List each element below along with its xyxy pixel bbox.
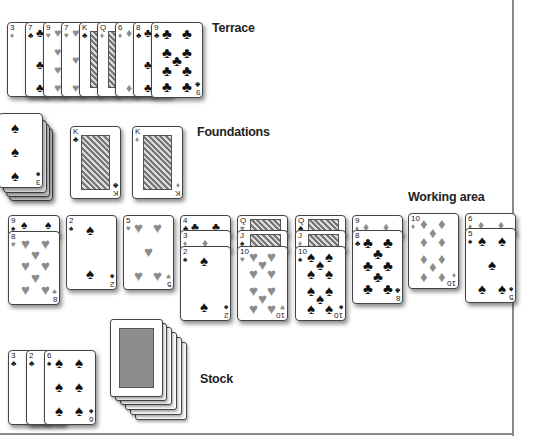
- diamond-icon: ♦: [438, 234, 446, 249]
- spade-icon: ♠: [307, 266, 315, 281]
- spade-icon: ♠: [183, 256, 187, 264]
- heart-icon: ♥: [267, 301, 276, 316]
- club-icon: ♣: [373, 269, 383, 284]
- spade-icon: ♠: [498, 281, 506, 296]
- spade-icon: ♠: [200, 299, 208, 314]
- heart-icon: ♥: [31, 247, 40, 262]
- heart-icon: ♥: [41, 236, 50, 251]
- heart-icon: ♥: [31, 270, 40, 285]
- spade-icon: ♠: [325, 301, 333, 316]
- spade-icon: ♠: [110, 272, 114, 280]
- spade-icon: ♠: [316, 257, 324, 272]
- club-icon: ♣: [363, 235, 373, 250]
- foundation-card-clubs[interactable]: K ♣ ♣ K: [70, 126, 121, 199]
- working-card[interactable]: 8 ♣ ♣ ♣ ♣ ♣ ♣ ♣ ♣ ♣ ♣ 8: [352, 230, 403, 304]
- club-icon: ♣: [363, 258, 373, 273]
- club-icon: ♣: [136, 32, 141, 40]
- club-icon: ♣: [355, 240, 360, 248]
- frame-bottom-border: [0, 433, 514, 435]
- diamond-icon: ♦: [411, 223, 415, 231]
- club-icon: ♣: [383, 258, 393, 273]
- club-icon: ♣: [154, 32, 159, 40]
- working-card[interactable]: 10 ♠ ♠ ♠ ♠ ♠ ♠ ♠ ♠ ♠ ♠ ♠ ♠ 10: [295, 246, 346, 321]
- spade-icon: ♠: [325, 283, 333, 298]
- diamond-icon: ♦: [118, 32, 122, 40]
- diamond-icon: ♦: [100, 32, 104, 40]
- club-icon: ♣: [29, 360, 34, 368]
- club-icon: ♣: [162, 79, 172, 94]
- working-card[interactable]: 10 ♥ ♥ ♥ ♥ ♥ ♥ ♥ ♥ ♥ ♥ ♥ ♥ 10: [237, 246, 288, 321]
- spade-icon: ♠: [316, 291, 324, 306]
- club-icon: ♣: [162, 45, 172, 60]
- spade-icon: ♠: [75, 355, 83, 370]
- club-icon: ♣: [182, 63, 192, 78]
- working-card[interactable]: 5 ♥ ♥ ♥ ♥ ♥ ♥ ♥ 5: [123, 215, 174, 290]
- working-card[interactable]: 10 ♦ ♦ ♦ ♦ ♦ ♦ ♦ ♦ ♦ ♦ ♦ ♦ 10: [408, 213, 459, 289]
- club-icon: ♣: [28, 32, 33, 40]
- heart-icon: ♥: [153, 268, 162, 283]
- club-icon: ♣: [195, 80, 200, 88]
- waste-card-top[interactable]: 6 ♠ ♠ ♠ ♠ ♠ ♠ ♠ ♠ 6: [44, 350, 96, 425]
- diamond-icon: ♦: [420, 216, 428, 231]
- heart-icon: ♥: [249, 266, 258, 281]
- club-icon: ♣: [383, 281, 393, 296]
- heart-icon: ♥: [166, 272, 171, 280]
- spade-icon: ♠: [55, 355, 63, 370]
- spade-icon: ♠: [11, 144, 19, 159]
- foundation-card-spades[interactable]: ♠ ♠ ♠ ♠ 3: [0, 113, 43, 188]
- heart-icon: ♥: [46, 32, 51, 40]
- diamond-icon: ♦: [420, 269, 428, 284]
- club-icon: ♣: [182, 45, 192, 60]
- heart-icon: ♥: [258, 291, 267, 306]
- club-icon: ♣: [82, 32, 87, 40]
- diamond-icon: ♦: [135, 136, 139, 144]
- diamond-icon: ♦: [176, 181, 180, 189]
- club-icon: ♣: [182, 26, 192, 41]
- spade-icon: ♠: [55, 379, 63, 394]
- diamond-icon: ♦: [126, 81, 132, 96]
- heart-icon: ♥: [41, 282, 50, 297]
- heart-icon: ♥: [258, 257, 267, 272]
- heart-icon: ♥: [153, 220, 162, 235]
- spade-icon: ♠: [11, 168, 19, 183]
- heart-icon: ♥: [280, 303, 285, 311]
- working-card[interactable]: 2 ♠ ♠ ♠ ♠ 2: [66, 215, 117, 290]
- spade-icon: ♠: [478, 281, 486, 296]
- working-card[interactable]: 2 ♠ ♠ ♠ ♠ 2: [180, 246, 231, 321]
- heart-icon: ♥: [52, 287, 57, 295]
- heart-icon: ♥: [21, 236, 30, 251]
- heart-icon: ♥: [126, 225, 131, 233]
- spade-icon: ♠: [478, 233, 486, 248]
- club-icon: ♣: [162, 26, 172, 41]
- heart-icon: ♥: [64, 32, 69, 40]
- diamond-icon: ♦: [420, 234, 428, 249]
- heart-icon: ♥: [240, 256, 245, 264]
- diamond-icon: ♦: [126, 26, 132, 41]
- spade-icon: ♠: [307, 301, 315, 316]
- spade-icon: ♠: [86, 222, 94, 237]
- heart-icon: ♥: [11, 241, 16, 249]
- heart-icon: ♥: [267, 249, 276, 264]
- heart-icon: ♥: [21, 258, 30, 273]
- king-face-art: [143, 135, 172, 190]
- terrace-card-top[interactable]: 9 ♣ ♣ ♣ ♣ ♣ ♣ ♣ ♣ ♣ ♣ ♣ 9: [151, 22, 203, 98]
- spade-icon: ♠: [55, 403, 63, 418]
- spade-icon: ♠: [325, 266, 333, 281]
- spade-icon: ♠: [47, 360, 51, 368]
- diamond-icon: ♦: [452, 271, 456, 279]
- club-icon: ♣: [383, 235, 393, 250]
- foundations-label: Foundations: [197, 125, 270, 139]
- club-icon: ♣: [172, 53, 182, 68]
- spade-icon: ♠: [75, 403, 83, 418]
- stock-label: Stock: [200, 372, 233, 386]
- foundation-card-diamonds[interactable]: K ♦ ♦ K: [132, 126, 183, 199]
- king-face-art: [81, 135, 110, 190]
- spade-icon: ♠: [509, 285, 513, 293]
- terrace-label: Terrace: [212, 21, 255, 35]
- working-card[interactable]: 5 ♠ ♠ ♠ ♠ ♠ ♠ ♠ 5: [465, 228, 516, 303]
- diamond-icon: ♦: [429, 225, 437, 240]
- card-back-top[interactable]: [110, 319, 163, 397]
- club-icon: ♣: [113, 181, 118, 189]
- working-card[interactable]: 8 ♥ ♥ ♥ ♥ ♥ ♥ ♥ ♥ ♥ ♥ 8: [8, 231, 60, 305]
- spade-icon: ♠: [488, 257, 496, 272]
